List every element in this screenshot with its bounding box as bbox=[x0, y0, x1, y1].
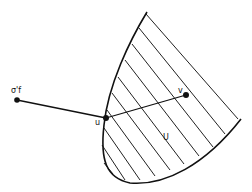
set-label: U bbox=[163, 133, 169, 142]
external-point-dot bbox=[14, 97, 20, 103]
boundary-point-dot bbox=[103, 115, 109, 121]
set-boundary-curve bbox=[103, 12, 241, 183]
hatch-lines bbox=[102, 14, 238, 180]
boundary-point-label: u bbox=[95, 118, 100, 127]
convex-set-diagram: σ'f u v U bbox=[0, 0, 252, 192]
interior-point-label: v bbox=[178, 86, 183, 95]
interior-point-dot bbox=[183, 92, 189, 98]
segment-sigma-to-u bbox=[17, 100, 106, 118]
external-point-label: σ'f bbox=[11, 86, 21, 95]
